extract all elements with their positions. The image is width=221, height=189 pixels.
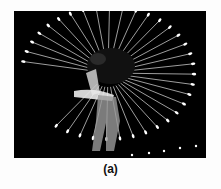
club-head-dot (148, 152, 150, 154)
golf-swing-photo (14, 11, 206, 158)
club-head-dot (163, 150, 165, 152)
figure-caption: (a) (0, 162, 221, 176)
club-head-dot (195, 145, 197, 147)
club-head-dot (179, 147, 181, 149)
club-head-dot (131, 154, 133, 156)
